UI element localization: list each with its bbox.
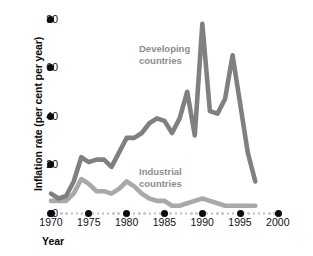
- x-axis-title: Year: [42, 235, 64, 247]
- x-axis-dot: [263, 212, 265, 214]
- x-axis-dot: [107, 212, 109, 214]
- x-axis-dot: [81, 212, 83, 214]
- x-axis-dot: [206, 212, 208, 214]
- x-axis-dot: [258, 212, 260, 214]
- x-axis-dot: [138, 212, 140, 214]
- x-axis-dot: [154, 212, 156, 214]
- x-axis-dot: [97, 212, 99, 214]
- annotation-developing-line1: Developing: [139, 43, 190, 55]
- x-axis-dot: [232, 212, 234, 214]
- x-tick-label-2000: 2000: [256, 216, 300, 228]
- chart-figure: Inflation rate (per cent per year) 80 60…: [0, 0, 313, 256]
- x-axis-dot: [169, 212, 171, 214]
- annotation-developing-countries: Developing countries: [139, 43, 190, 66]
- x-axis-dot: [221, 212, 223, 214]
- x-axis-dot: [268, 212, 270, 214]
- x-axis-dot: [216, 212, 218, 214]
- x-axis-dot: [185, 212, 187, 214]
- x-axis-dot: [247, 212, 249, 214]
- x-axis-dot: [253, 212, 255, 214]
- x-axis-dot: [65, 212, 67, 214]
- x-axis-dot: [133, 212, 135, 214]
- x-axis-dot: [71, 212, 73, 214]
- x-axis-dot: [60, 212, 62, 214]
- x-axis-dot: [149, 212, 151, 214]
- annotation-industrial-line1: Industrial: [139, 166, 182, 178]
- x-axis-dot: [102, 212, 104, 214]
- annotation-developing-line2: countries: [139, 55, 190, 67]
- x-axis-dot: [117, 212, 119, 214]
- annotation-industrial-line2: countries: [139, 178, 182, 190]
- x-axis-dot: [190, 212, 192, 214]
- x-axis-dot: [180, 212, 182, 214]
- x-axis-dot: [143, 212, 145, 214]
- x-axis-dot: [55, 212, 57, 214]
- x-axis-dot: [211, 212, 213, 214]
- x-axis-dot: [195, 212, 197, 214]
- annotation-industrial-countries: Industrial countries: [139, 166, 182, 189]
- x-axis-dot: [227, 212, 229, 214]
- x-axis-dot: [76, 212, 78, 214]
- x-axis-dot: [112, 212, 114, 214]
- x-axis-dot: [175, 212, 177, 214]
